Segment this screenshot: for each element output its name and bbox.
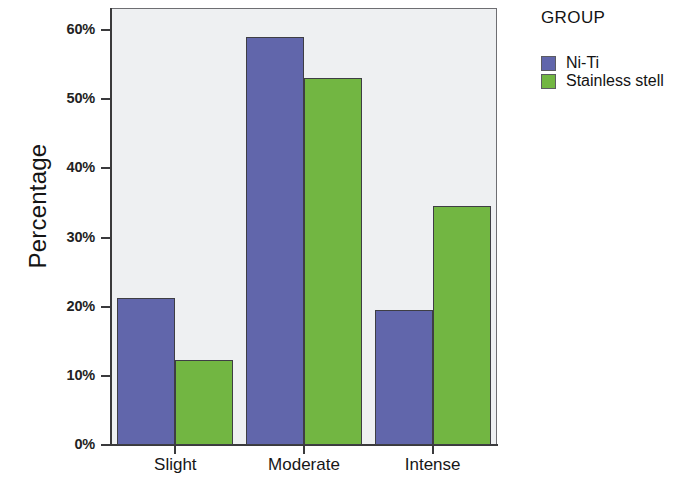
y-tick-label: 50%: [33, 90, 95, 106]
y-tick-label: 60%: [33, 21, 95, 37]
x-tick-label: Moderate: [239, 455, 369, 475]
y-tick-mark: [101, 375, 111, 377]
y-tick-label-text: 50%: [33, 90, 95, 106]
y-tick-mark: [101, 98, 111, 100]
y-tick-label: 20%: [33, 298, 95, 314]
legend-swatch-icon: [541, 74, 556, 89]
y-tick-mark: [101, 237, 111, 239]
y-tick-label-text: 20%: [33, 298, 95, 314]
legend: GROUP Ni-TiStainless stell: [541, 8, 693, 90]
legend-entry: Ni-Ti: [541, 54, 693, 72]
x-tick-mark: [432, 445, 434, 454]
y-tick-label-text: 60%: [33, 21, 95, 37]
legend-label: Stainless stell: [566, 72, 664, 90]
y-tick-label-text: 30%: [33, 229, 95, 245]
y-tick-label: 30%: [33, 229, 95, 245]
bar: [375, 310, 433, 445]
legend-title: GROUP: [541, 8, 693, 28]
x-tick-label: Slight: [110, 455, 240, 475]
y-axis-title: Percentage: [24, 96, 52, 316]
y-axis-line: [110, 8, 112, 446]
y-tick-label-text: 10%: [33, 367, 95, 383]
y-tick-mark: [101, 444, 111, 446]
y-tick-label: 40%: [33, 159, 95, 175]
bar: [304, 78, 362, 445]
y-tick-mark: [101, 306, 111, 308]
legend-label: Ni-Ti: [566, 54, 599, 72]
bar: [117, 298, 175, 445]
bar: [246, 37, 304, 445]
y-tick-label: 10%: [33, 367, 95, 383]
x-tick-label: Intense: [368, 455, 498, 475]
y-tick-label-text: 0%: [33, 436, 95, 452]
bar: [433, 206, 491, 445]
legend-entries: Ni-TiStainless stell: [541, 54, 693, 90]
legend-entry: Stainless stell: [541, 72, 693, 90]
legend-swatch-icon: [541, 56, 556, 71]
y-tick-label: 0%: [33, 436, 95, 452]
y-tick-mark: [101, 29, 111, 31]
bar-chart-figure: Percentage 0%10%20%30%40%50%60% SlightMo…: [0, 0, 696, 480]
x-tick-mark: [303, 445, 305, 454]
bar: [175, 360, 233, 445]
y-tick-mark: [101, 167, 111, 169]
x-tick-mark: [174, 445, 176, 454]
y-tick-label-text: 40%: [33, 159, 95, 175]
